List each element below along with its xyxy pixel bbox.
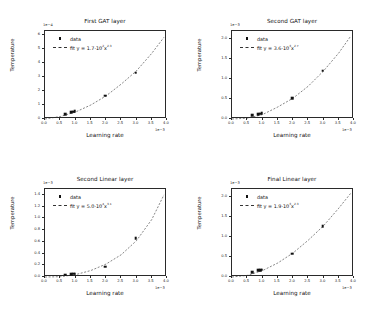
legend-marker-dashed-line	[52, 47, 68, 48]
y-tick-label: 2	[38, 88, 40, 92]
y-tick-label: 0.0	[34, 274, 40, 278]
dashed-line-icon	[53, 47, 67, 48]
y-tick-label: 0.2	[34, 262, 40, 266]
y-tick	[42, 229, 44, 230]
y-axis-label: Temperature	[9, 191, 15, 235]
legend: datafit y = 3.6·103x2.7	[239, 34, 299, 52]
x-tick-label: 1.5	[87, 121, 93, 125]
data-point	[291, 97, 294, 100]
y-tick-label: 2.0	[221, 194, 227, 198]
data-point	[251, 271, 254, 274]
panel-title: First GAT layer	[44, 18, 166, 24]
legend-entry-data: data	[52, 34, 112, 43]
data-point	[134, 71, 137, 74]
x-tick-label: 1.0	[72, 121, 78, 125]
legend-label-fit: fit y = 1.9·103x2.3	[255, 203, 299, 209]
legend: datafit y = 1.9·103x2.3	[239, 192, 299, 210]
figure-canvas: First GAT layer1e−41e−3TemperatureLearni…	[0, 0, 373, 316]
x-tick-label: 1.5	[87, 279, 93, 283]
legend-label-data: data	[255, 36, 268, 42]
legend-label-data: data	[68, 194, 81, 200]
x-tick-label: 0.5	[243, 279, 249, 283]
y-tick	[229, 38, 231, 39]
y-tick	[42, 264, 44, 265]
y-tick	[229, 58, 231, 59]
x-tick-label: 2.0	[102, 279, 108, 283]
legend-label-fit: fit y = 3.6·103x2.7	[255, 45, 299, 51]
y-tick-label: 1.0	[34, 215, 40, 219]
x-tick-label: 2.0	[102, 121, 108, 125]
x-tick-label: 0.0	[228, 279, 234, 283]
x-tick-label: 0.5	[243, 121, 249, 125]
y-tick	[42, 206, 44, 207]
y-tick	[229, 216, 231, 217]
square-marker-icon	[59, 195, 62, 198]
x-tick-label: 4.0	[350, 121, 356, 125]
legend-marker-dot	[239, 195, 255, 198]
fit-power-exponent: 2.3	[294, 202, 299, 206]
data-point	[64, 273, 67, 276]
legend-entry-data: data	[52, 192, 112, 201]
y-tick-label: 0.6	[34, 239, 40, 243]
legend: datafit y = 1.7·102x2.3	[52, 34, 112, 52]
y-tick	[42, 241, 44, 242]
y-tick	[42, 217, 44, 218]
x-tick-label: 3.5	[148, 279, 154, 283]
y-axis-exponent: 1e−3	[230, 23, 240, 27]
y-tick-label: 0.5	[221, 254, 227, 258]
y-tick-label: 0	[38, 116, 40, 120]
legend-marker-dashed-line	[52, 205, 68, 206]
dashed-line-icon	[240, 47, 254, 48]
y-tick-label: 0.8	[34, 227, 40, 231]
dashed-line-icon	[240, 205, 254, 206]
y-tick	[229, 236, 231, 237]
x-tick-label: 4.0	[350, 279, 356, 283]
x-tick-label: 1.5	[274, 279, 280, 283]
dashed-line-icon	[53, 205, 67, 206]
square-marker-icon	[246, 195, 249, 198]
x-tick-label: 4.0	[163, 121, 169, 125]
legend-label-fit: fit y = 5.0·104x3.1	[68, 203, 112, 209]
y-tick-label: 6	[38, 32, 40, 36]
y-tick	[229, 276, 231, 277]
x-tick-label: 0.5	[56, 121, 62, 125]
x-tick-label: 0.0	[41, 279, 47, 283]
x-tick-label: 1.0	[259, 279, 265, 283]
data-point	[73, 272, 76, 275]
y-tick-label: 0.0	[221, 116, 227, 120]
x-tick-label: 2.5	[117, 279, 123, 283]
fit-coefficient-exponent: 2	[102, 44, 104, 48]
x-tick-label: 1.0	[72, 279, 78, 283]
y-tick	[229, 118, 231, 119]
subplot-second-gat-layer: Second GAT layer1e−31e−3TemperatureLearn…	[187, 0, 373, 158]
x-tick-label: 2.0	[289, 279, 295, 283]
x-axis-label: Learning rate	[231, 290, 353, 296]
x-axis-label: Learning rate	[44, 290, 166, 296]
y-tick	[229, 98, 231, 99]
data-point	[104, 265, 107, 268]
y-tick-label: 1.0	[221, 234, 227, 238]
legend-entry-fit: fit y = 3.6·103x2.7	[239, 43, 299, 52]
y-tick-label: 1.4	[34, 192, 40, 196]
y-axis-exponent: 1e−3	[230, 181, 240, 185]
legend-entry-data: data	[239, 192, 299, 201]
y-axis-label: Temperature	[9, 33, 15, 77]
x-tick-label: 0.5	[56, 279, 62, 283]
x-tick-label: 3.5	[148, 121, 154, 125]
y-tick	[42, 118, 44, 119]
x-tick-label: 3.0	[320, 121, 326, 125]
legend-label-data: data	[68, 36, 81, 42]
legend-entry-fit: fit y = 5.0·104x3.1	[52, 201, 112, 210]
y-tick	[42, 62, 44, 63]
legend-label-fit: fit y = 1.7·102x2.3	[68, 45, 112, 51]
y-tick-label: 2.0	[221, 36, 227, 40]
legend-marker-dashed-line	[239, 47, 255, 48]
y-tick	[229, 256, 231, 257]
x-tick-label: 3.0	[133, 121, 139, 125]
x-tick-label: 2.5	[304, 279, 310, 283]
legend: datafit y = 5.0·104x3.1	[52, 192, 112, 210]
y-axis-exponent: 1e−3	[43, 181, 53, 185]
y-tick-label: 1.0	[221, 76, 227, 80]
subplot-first-gat-layer: First GAT layer1e−41e−3TemperatureLearni…	[0, 0, 186, 158]
legend-label-data: data	[255, 194, 268, 200]
